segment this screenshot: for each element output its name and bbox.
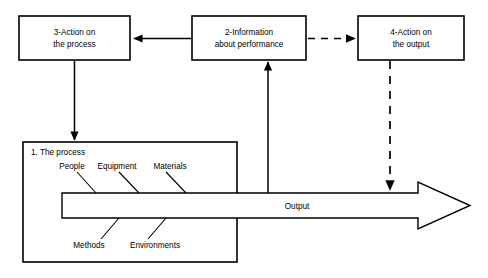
box-action-on-process[interactable]: 3-Action on the process: [19, 16, 130, 60]
factor-label-environments: Environments: [130, 241, 180, 250]
process-feedback-diagram: 3-Action on the process 2-Information ab…: [0, 0, 488, 278]
box-action-on-output-rect: [358, 16, 464, 60]
box-action-on-process-line2: the process: [53, 40, 95, 49]
box-action-on-output-line1: 4-Action on: [390, 28, 432, 37]
diagram-canvas: 3-Action on the process 2-Information ab…: [0, 0, 488, 278]
box-information-line2: about performance: [215, 40, 284, 49]
factor-label-people: People: [59, 162, 85, 171]
factor-label-methods: Methods: [73, 241, 104, 250]
box-information-about-performance[interactable]: 2-Information about performance: [192, 16, 306, 60]
process-box-title: 1. The process: [31, 148, 85, 157]
factor-label-materials: Materials: [153, 162, 186, 171]
box-action-on-process-line1: 3-Action on: [54, 28, 96, 37]
box-action-on-output-line2: the output: [393, 40, 430, 49]
box-information-line1: 2-Information: [225, 28, 274, 37]
factor-label-equipment: Equipment: [97, 162, 137, 171]
output-arrow-label: Output: [285, 202, 310, 211]
box-action-on-output[interactable]: 4-Action on the output: [358, 16, 464, 60]
box-action-on-process-rect: [19, 16, 130, 60]
box-information-rect: [192, 16, 306, 60]
